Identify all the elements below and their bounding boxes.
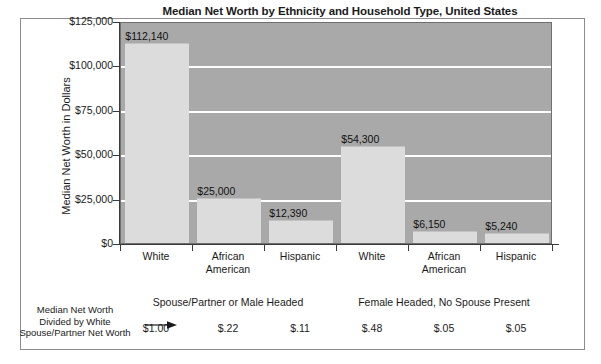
y-tick-mark: [113, 200, 120, 201]
ratio-value: $.05: [480, 322, 552, 334]
ratio-value: $.11: [264, 322, 336, 334]
y-axis-line: [119, 22, 120, 245]
x-category-label-line: Hispanic: [264, 250, 336, 263]
y-tick-label: $75,000: [41, 105, 113, 116]
y-tick-mark: [113, 244, 120, 245]
bar-slot: $5,240: [481, 23, 553, 243]
group-label: Spouse/Partner or Male Headed: [120, 296, 336, 308]
ratio-arrow-icon: [145, 320, 177, 330]
ratio-caption-line: Median Net Worth: [5, 304, 145, 316]
plot-area: $112,140$25,000$12,390$54,300$6,150$5,24…: [120, 22, 552, 244]
ratio-value: $.22: [192, 322, 264, 334]
bar[interactable]: [197, 198, 260, 243]
bar-slot: $25,000: [193, 23, 265, 243]
ratio-caption-line: Divided by White: [5, 316, 145, 328]
y-tick-label: $0: [41, 238, 113, 249]
x-category-label: AfricanAmerican: [408, 250, 480, 275]
y-tick-label: $100,000: [41, 60, 113, 71]
bar-slot: $12,390: [265, 23, 337, 243]
x-category-label-line: African: [408, 250, 480, 263]
x-category-label: Hispanic: [264, 250, 336, 263]
y-tick-label: $125,000: [41, 16, 113, 27]
y-tick-label: $50,000: [41, 149, 113, 160]
x-tick-mark: [552, 245, 553, 251]
bar-value-label: $25,000: [197, 185, 235, 197]
x-category-label: AfricanAmerican: [192, 250, 264, 275]
x-category-label-line: White: [120, 250, 192, 263]
x-category-label: White: [120, 250, 192, 263]
bar[interactable]: [341, 146, 404, 243]
x-category-label-line: American: [192, 263, 264, 276]
bar-value-label: $6,150: [413, 218, 445, 230]
bar-value-label: $54,300: [341, 133, 379, 145]
y-tick-mark: [113, 155, 120, 156]
y-tick-mark: [113, 66, 120, 67]
bar[interactable]: [413, 231, 476, 243]
ratio-value: $.05: [408, 322, 480, 334]
bar[interactable]: [269, 220, 332, 243]
y-tick-label: $25,000: [41, 194, 113, 205]
bar-slot: $112,140: [121, 23, 193, 243]
bar-value-label: $12,390: [269, 207, 307, 219]
x-category-label-line: White: [336, 250, 408, 263]
bar[interactable]: [485, 233, 548, 243]
bar-slot: $6,150: [409, 23, 481, 243]
y-tick-mark: [113, 22, 120, 23]
ratio-caption-line: Spouse/Partner Net Worth: [5, 327, 145, 339]
x-category-label: White: [336, 250, 408, 263]
bar[interactable]: [125, 43, 188, 243]
ratio-value: $.48: [336, 322, 408, 334]
chart-title: Median Net Worth by Ethnicity and Househ…: [120, 5, 560, 17]
x-category-label-line: Hispanic: [480, 250, 552, 263]
bars-layer: $112,140$25,000$12,390$54,300$6,150$5,24…: [121, 23, 551, 243]
bar-value-label: $112,140: [125, 30, 168, 42]
bar-slot: $54,300: [337, 23, 409, 243]
group-label: Female Headed, No Spouse Present: [336, 296, 552, 308]
ratio-caption: Median Net WorthDivided by WhiteSpouse/P…: [5, 304, 145, 339]
x-category-label: Hispanic: [480, 250, 552, 263]
x-category-label-line: African: [192, 250, 264, 263]
y-tick-mark: [113, 111, 120, 112]
x-category-label-line: American: [408, 263, 480, 276]
bar-value-label: $5,240: [485, 220, 517, 232]
